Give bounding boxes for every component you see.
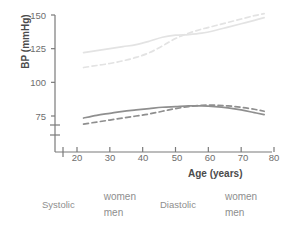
data-series-layer bbox=[84, 14, 265, 124]
series-line-systolic-women bbox=[84, 14, 265, 68]
legend-label-diastolic-men: men bbox=[225, 207, 244, 219]
legend-label-systolic-women: women bbox=[104, 191, 136, 203]
legend-group-systolic: Systolic women men bbox=[42, 189, 136, 220]
chart-legend: Systolic women men Diastolic bbox=[0, 186, 290, 227]
series-line-diastolic-women bbox=[84, 105, 265, 124]
x-tick-label-30: 30 bbox=[105, 152, 116, 163]
x-tick-label-60: 60 bbox=[205, 152, 216, 163]
legend-entry-diastolic-men: men bbox=[201, 205, 257, 220]
series-line-systolic-men bbox=[84, 18, 265, 53]
legend-entry-systolic-men: men bbox=[80, 205, 136, 220]
x-axis-title: Age (years) bbox=[188, 168, 242, 179]
bp-vs-age-chart: BP (mmHg) 150 125 100 75 20 30 40 50 bbox=[0, 0, 290, 227]
legend-group-title-diastolic: Diastolic bbox=[160, 199, 196, 210]
legend-label-diastolic-women: women bbox=[225, 191, 257, 203]
x-tick-label-80: 80 bbox=[269, 152, 280, 163]
legend-group-diastolic: Diastolic women men bbox=[160, 189, 257, 220]
legend-entry-systolic-women: women bbox=[80, 189, 136, 204]
x-tick-label-40: 40 bbox=[138, 152, 149, 163]
x-tick-label-20: 20 bbox=[72, 152, 83, 163]
x-tick-label-50: 50 bbox=[172, 152, 183, 163]
x-tick-label-70: 70 bbox=[238, 152, 249, 163]
legend-group-title-systolic: Systolic bbox=[42, 199, 75, 210]
legend-entry-diastolic-women: women bbox=[201, 189, 257, 204]
x-axis-tick-labels: 20 30 40 50 60 70 80 bbox=[0, 152, 290, 168]
legend-label-systolic-men: men bbox=[104, 207, 123, 219]
series-line-diastolic-men bbox=[84, 106, 265, 118]
y-axis-break-icon bbox=[50, 125, 60, 152]
